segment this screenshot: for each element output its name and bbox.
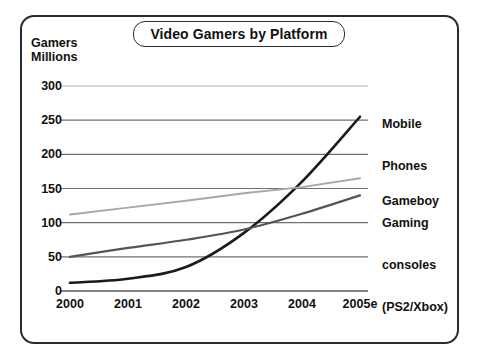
- y-tick-50: 50: [28, 250, 62, 264]
- x-tick-label-2003: 2003: [215, 297, 273, 311]
- y-tick-label-50: 50: [28, 250, 62, 264]
- y-tick-200: 200: [28, 147, 62, 161]
- y-tick-label-200: 200: [28, 147, 62, 161]
- series-line-mobile-phones: [70, 117, 360, 283]
- y-tick-label-0: 0: [28, 284, 62, 298]
- y-tick-150: 150: [28, 182, 62, 196]
- x-tick-label-2001: 2001: [99, 297, 157, 311]
- y-tick-300: 300: [28, 79, 62, 93]
- chart-figure: Video Gamers by Platform Gamers Millions…: [0, 0, 483, 362]
- y-tick-label-250: 250: [28, 113, 62, 127]
- y-tick-0: 0: [28, 284, 62, 298]
- x-tick-label-2002: 2002: [157, 297, 215, 311]
- series-line-gaming-consoles-ps2-xbox: [70, 195, 360, 256]
- series-label-gaming-consoles: Gaming consoles (PS2/Xbox): [382, 188, 448, 342]
- series-label-gaming-consoles-line1: Gaming: [382, 216, 448, 230]
- y-tick-label-150: 150: [28, 182, 62, 196]
- series-label-mobile-phones-line1: Mobile: [382, 117, 427, 131]
- y-tick-label-100: 100: [28, 216, 62, 230]
- x-tick-label-2004: 2004: [273, 297, 331, 311]
- y-tick-100: 100: [28, 216, 62, 230]
- y-tick-label-300: 300: [28, 79, 62, 93]
- series-label-gaming-consoles-line2: consoles: [382, 258, 448, 272]
- x-tick-label-2005e: 2005e: [331, 297, 389, 311]
- y-tick-250: 250: [28, 113, 62, 127]
- x-tick-label-2000: 2000: [41, 297, 99, 311]
- series-label-gaming-consoles-line3: (PS2/Xbox): [382, 300, 448, 314]
